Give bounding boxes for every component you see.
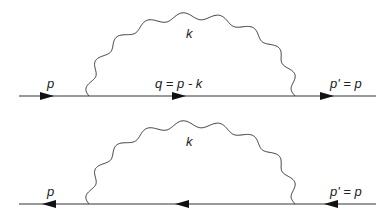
feynman-diagrams: p q = p - k k p' = p p k p' = p — [0, 0, 391, 220]
diagram-bottom: p k p' = p — [19, 121, 376, 208]
arrow-left-icon — [324, 200, 338, 208]
label-q: q = p - k — [155, 76, 204, 91]
label-p-left: p — [46, 184, 54, 199]
diagram-top: p q = p - k k p' = p — [19, 13, 376, 100]
label-p-in: p — [46, 76, 54, 91]
arrow-right-icon — [40, 92, 54, 100]
label-p-right: p' = p — [329, 184, 362, 199]
label-k: k — [186, 26, 194, 41]
arrow-left-icon — [175, 200, 189, 208]
arrow-left-icon — [42, 200, 56, 208]
label-k: k — [186, 134, 194, 149]
label-p-out: p' = p — [329, 76, 362, 91]
arrow-right-icon — [320, 92, 334, 100]
arrow-right-icon — [172, 92, 186, 100]
